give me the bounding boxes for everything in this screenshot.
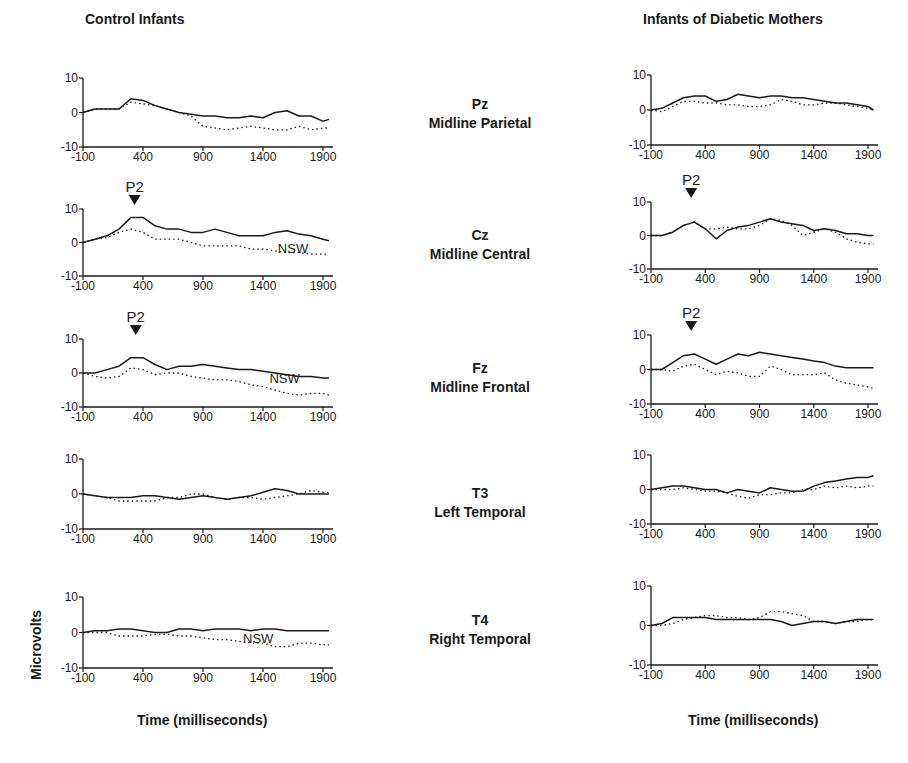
x-tick-label: 1900 [310,532,337,546]
x-tick-label: -100 [639,527,663,541]
chart-panel-t4-idm: 100-10-10040090014001900 [629,579,882,682]
x-tick-label: 400 [695,668,715,682]
erp-line-solid [651,94,873,110]
y-tick-label: 10 [65,202,79,216]
x-tick-label: 900 [749,272,769,286]
x-tick-label: 1400 [800,668,827,682]
y-tick-label: 0 [639,619,646,633]
x-tick-label: 1400 [800,407,827,421]
x-tick-label: 1900 [855,148,882,162]
x-tick-label: 1900 [855,668,882,682]
nsw-label: NSW [278,241,309,256]
y-tick-label: 0 [639,229,646,243]
x-tick-label: 1900 [310,671,337,685]
x-tick-label: -100 [639,407,663,421]
y-tick-label: 10 [65,590,79,604]
x-tick-label: 1400 [250,532,277,546]
x-tick-label: 1400 [250,150,277,164]
y-tick-label: 10 [633,68,647,82]
chart-panel-cz-control: 100-10-10040090014001900P2NSW [61,178,337,293]
x-tick-label: 400 [133,279,153,293]
erp-line-dotted [651,612,873,626]
y-tick-label: 10 [633,328,647,342]
x-tick-label: 900 [749,407,769,421]
erp-line-dotted [83,633,329,647]
x-tick-label: 1400 [250,279,277,293]
chart-panel-t3-control: 100-10-10040090014001900 [61,452,337,546]
chart-panel-fz-idm: 100-10-10040090014001900P2 [629,304,882,421]
chart-panel-t4-control: 100-10-10040090014001900NSW [61,590,337,685]
x-tick-label: -100 [71,150,95,164]
x-tick-label: 400 [133,150,153,164]
y-tick-label: 10 [633,579,647,593]
x-tick-label: 900 [749,668,769,682]
chart-panel-t3-idm: 100-10-10040090014001900 [629,448,882,541]
x-tick-label: 1400 [800,148,827,162]
p2-marker-icon [685,321,697,331]
p2-label: P2 [127,308,145,325]
x-tick-label: 1900 [310,150,337,164]
x-tick-label: 1400 [800,527,827,541]
x-tick-label: 900 [193,671,213,685]
x-tick-label: 900 [193,410,213,424]
x-tick-label: 1900 [855,527,882,541]
chart-panel-fz-control: 100-10-10040090014001900P2NSW [61,308,337,424]
x-tick-label: -100 [639,668,663,682]
y-tick-label: 0 [639,483,646,497]
x-tick-label: -100 [71,279,95,293]
x-tick-label: -100 [639,148,663,162]
y-tick-label: 0 [71,626,78,640]
x-tick-label: 400 [695,527,715,541]
x-tick-label: 400 [133,671,153,685]
nsw-label: NSW [243,631,274,646]
y-tick-label: 10 [65,71,79,85]
x-tick-label: -100 [71,410,95,424]
erp-line-solid [651,476,873,493]
y-tick-label: 0 [71,487,78,501]
x-tick-label: 1900 [310,279,337,293]
x-tick-label: 1900 [855,272,882,286]
y-tick-label: 10 [633,195,647,209]
x-tick-label: 400 [133,410,153,424]
y-tick-label: 10 [633,448,647,462]
chart-panel-cz-idm: 100-10-10040090014001900P2 [629,171,882,286]
erp-line-solid [83,629,329,633]
p2-label: P2 [125,178,143,195]
chart-panel-pz-idm: 100-10-10040090014001900 [629,68,882,162]
erp-line-solid [651,352,873,369]
x-tick-label: 1900 [855,407,882,421]
y-tick-label: 0 [71,236,78,250]
y-tick-label: 0 [71,366,78,380]
y-tick-label: 0 [639,103,646,117]
x-tick-label: -100 [639,272,663,286]
x-tick-label: 1400 [250,671,277,685]
x-tick-label: 1900 [310,410,337,424]
erp-line-solid [83,99,329,121]
x-tick-label: -100 [71,671,95,685]
x-tick-label: 900 [193,279,213,293]
p2-marker-icon [685,188,697,198]
y-tick-label: 10 [65,332,79,346]
x-tick-label: 900 [193,532,213,546]
chart-panel-pz-control: 100-10-10040090014001900 [61,71,337,164]
nsw-label: NSW [269,371,300,386]
x-tick-label: 1400 [800,272,827,286]
y-tick-label: 0 [71,106,78,120]
x-tick-label: 900 [193,150,213,164]
x-tick-label: 900 [749,527,769,541]
x-tick-label: 400 [695,272,715,286]
p2-marker-icon [130,325,142,335]
y-tick-label: 10 [65,452,79,466]
p2-marker-icon [129,195,141,205]
p2-label: P2 [682,304,700,321]
erp-line-solid [83,489,329,500]
p2-label: P2 [682,171,700,188]
erp-charts: 100-10-10040090014001900100-10-100400900… [0,0,908,763]
y-tick-label: 0 [639,363,646,377]
x-tick-label: 400 [695,407,715,421]
erp-line-solid [83,217,329,242]
x-tick-label: 1400 [250,410,277,424]
x-tick-label: 900 [749,148,769,162]
erp-line-solid [651,219,873,239]
erp-line-solid [651,618,873,626]
